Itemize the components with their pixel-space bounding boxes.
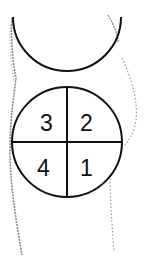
body-outline-right-2 <box>122 58 136 145</box>
quadrant-label-upper-right: 2 <box>80 110 93 136</box>
quadrant-label-upper-left: 3 <box>40 110 53 136</box>
abdomen-quadrant-diagram: 3 2 4 1 <box>0 0 145 279</box>
upper-arc <box>13 17 121 71</box>
quadrant-label-lower-right: 1 <box>80 155 93 181</box>
quadrant-label-lower-left: 4 <box>37 155 50 181</box>
body-outline-right-3 <box>110 175 114 250</box>
